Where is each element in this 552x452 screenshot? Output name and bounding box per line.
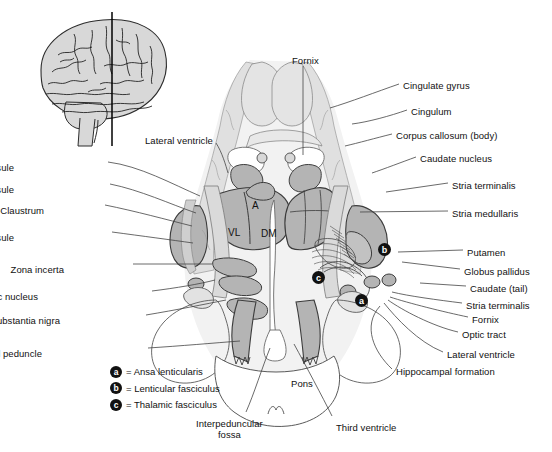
left-fornix-column xyxy=(257,153,267,163)
legend-row-b: b= Lenticular fasciculus xyxy=(110,381,220,396)
stria-terminalis-right xyxy=(382,274,396,286)
label-putamen: Putamen xyxy=(467,247,505,258)
label-globus-pallidus: Globus pallidus xyxy=(464,266,530,277)
right-cingulate-gyrus xyxy=(272,62,313,126)
label-cerebral-peduncle: Cerebral peduncle xyxy=(0,348,42,359)
label-stria-terminalis: Stria terminalis xyxy=(466,300,530,311)
coronal-brain-section-figure xyxy=(0,0,552,452)
legend-row-a: a= Ansa lenticularis xyxy=(110,364,220,379)
legend-bullet-b: b xyxy=(110,382,122,394)
legend-text-thalamic-fasciculus: = Thalamic fasciculus xyxy=(126,399,217,410)
label-hippocampal-formation: Hippocampal formation xyxy=(396,366,495,377)
label-lateral-ventricle: Lateral ventricle xyxy=(145,135,213,146)
label-substantia-nigra: Substantia nigra xyxy=(0,315,60,326)
inner-label-vl: VL xyxy=(228,227,240,238)
label-extreme-capsule: Extreme capsule xyxy=(0,232,14,243)
label-fornix: Fornix xyxy=(292,55,319,66)
marker-a: a xyxy=(355,294,368,307)
label-optic-tract: Optic tract xyxy=(462,329,506,340)
brainstem-body xyxy=(78,118,95,146)
legend-row-c: c= Thalamic fasciculus xyxy=(110,397,220,412)
label-pons: Pons xyxy=(291,378,313,389)
legend-bullet-c: c xyxy=(110,399,122,411)
label-interpeduncular-fossa: Interpeduncularfossa xyxy=(196,418,263,440)
label-zona-incerta: Zona incerta xyxy=(11,264,64,275)
inner-label-a: A xyxy=(252,200,259,211)
legend-text-ansa-lenticularis: = Ansa lenticularis xyxy=(126,366,203,377)
label-subthalamic-nucleus: Subthalamic nucleus xyxy=(0,291,38,302)
label-caudate-tail: Caudate (tail) xyxy=(470,283,528,294)
marker-b: b xyxy=(378,243,391,256)
label-cingulum: Cingulum xyxy=(411,106,452,117)
label-stria-terminalis: Stria terminalis xyxy=(452,180,516,191)
label-stria-medullaris: Stria medullaris xyxy=(452,208,518,219)
label-lateral-ventricle: Lateral ventricle xyxy=(447,349,515,360)
legend: a= Ansa lenticularisb= Lenticular fascic… xyxy=(110,364,220,414)
legend-bullet-a: a xyxy=(110,366,122,378)
caudate-tail-right xyxy=(364,276,380,288)
label-internal-capsule: Internal capsule xyxy=(0,162,14,173)
label-caudate-nucleus: Caudate nucleus xyxy=(420,153,492,164)
marker-c: c xyxy=(312,271,325,284)
inner-label-dm: DM xyxy=(261,228,277,239)
label-claustrum: Claustrum xyxy=(0,205,44,216)
label-third-ventricle: Third ventricle xyxy=(336,422,396,433)
legend-text-lenticular-fasciculus: = Lenticular fasciculus xyxy=(126,383,220,394)
label-cingulate-gyrus: Cingulate gyrus xyxy=(403,80,470,91)
right-fornix-column xyxy=(285,153,295,163)
label-fornix: Fornix xyxy=(472,314,499,325)
label-external-capsule: External capsule xyxy=(0,184,14,195)
label-corpus-callosum-body: Corpus callosum (body) xyxy=(396,130,497,141)
